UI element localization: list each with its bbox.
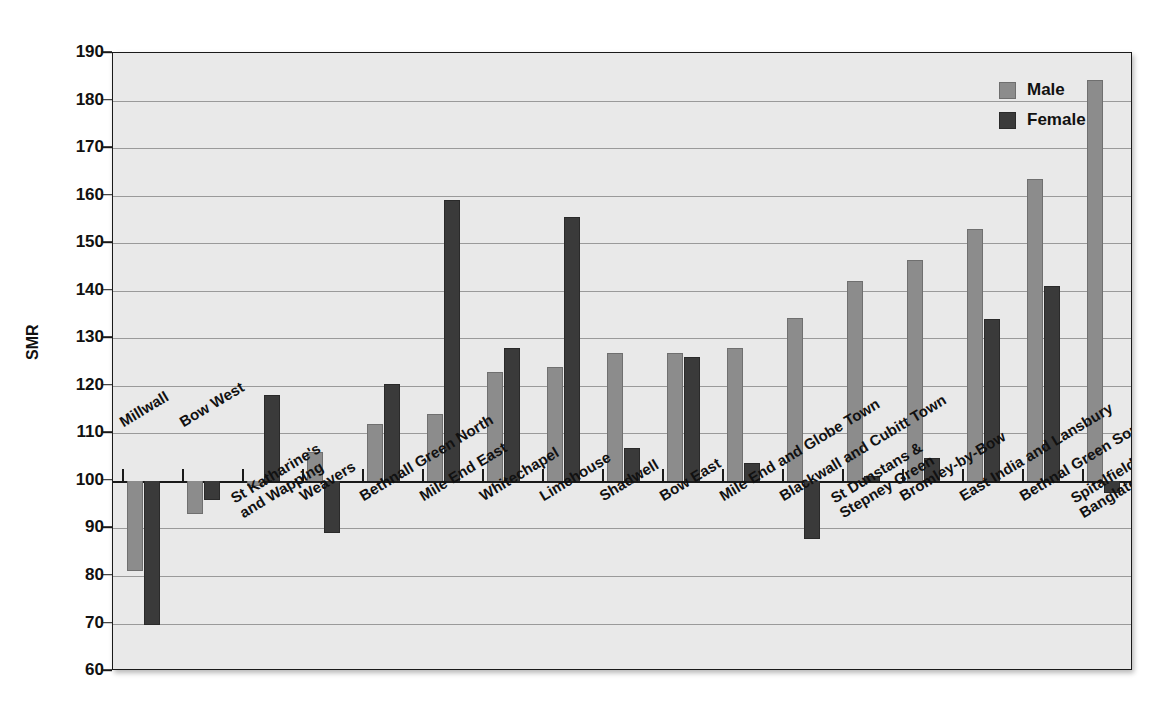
y-axis-tick-mark bbox=[101, 51, 112, 53]
x-axis-tick-mark bbox=[662, 469, 664, 481]
bar-female[interactable] bbox=[684, 357, 700, 481]
y-axis-tick-label: 180 bbox=[34, 90, 104, 110]
bar-female[interactable] bbox=[564, 217, 580, 481]
y-axis-tick-mark bbox=[101, 669, 112, 671]
y-axis-tick-mark bbox=[101, 336, 112, 338]
legend-label-female: Female bbox=[1027, 110, 1086, 130]
gridline bbox=[113, 196, 1131, 197]
bar-male[interactable] bbox=[727, 348, 743, 481]
x-axis-tick-mark bbox=[362, 469, 364, 481]
x-axis-tick-mark bbox=[1022, 469, 1024, 481]
legend-swatch-male-icon bbox=[999, 82, 1016, 99]
x-axis-tick-mark bbox=[122, 469, 124, 481]
y-axis-tick-mark bbox=[101, 194, 112, 196]
y-axis-tick-mark bbox=[101, 384, 112, 386]
x-axis-tick-mark bbox=[782, 469, 784, 481]
legend-item-male[interactable]: Male bbox=[999, 75, 1086, 105]
y-axis-tick-label: 110 bbox=[34, 422, 104, 442]
y-axis-tick-label: 100 bbox=[34, 470, 104, 490]
legend: Male Female bbox=[999, 75, 1086, 135]
y-axis-tick-mark bbox=[101, 241, 112, 243]
bar-male[interactable] bbox=[1027, 179, 1043, 481]
y-axis-tick-label: 130 bbox=[34, 327, 104, 347]
x-axis-tick-mark bbox=[242, 469, 244, 481]
x-axis-tick-mark bbox=[602, 469, 604, 481]
y-axis-tick-mark bbox=[101, 622, 112, 624]
x-axis-tick-mark bbox=[962, 469, 964, 481]
y-axis-tick-label: 170 bbox=[34, 137, 104, 157]
chart-page: Continued data set in a multi-sheet is t… bbox=[0, 0, 1159, 728]
bar-female[interactable] bbox=[204, 481, 220, 500]
gridline bbox=[113, 148, 1131, 149]
y-axis-tick-mark bbox=[101, 479, 112, 481]
y-axis-tick-label: 70 bbox=[34, 613, 104, 633]
y-axis-tick-label: 140 bbox=[34, 280, 104, 300]
y-axis-tick-label: 190 bbox=[34, 42, 104, 62]
y-axis-tick-mark bbox=[101, 99, 112, 101]
gridline bbox=[113, 528, 1131, 529]
y-axis-tick-mark bbox=[101, 574, 112, 576]
x-axis-tick-mark bbox=[1082, 469, 1084, 481]
y-axis-tick-label: 60 bbox=[34, 660, 104, 680]
x-axis-tick-mark bbox=[422, 469, 424, 481]
plot-area: MillwallBow WestSt Katharine's and Wappi… bbox=[112, 52, 1132, 670]
gridline bbox=[113, 576, 1131, 577]
bar-male[interactable] bbox=[667, 353, 683, 481]
x-axis-tick-mark bbox=[182, 469, 184, 481]
y-axis-tick-label: 90 bbox=[34, 517, 104, 537]
bar-female[interactable] bbox=[984, 319, 1000, 481]
y-axis-tick-mark bbox=[101, 527, 112, 529]
plot-inner: MillwallBow WestSt Katharine's and Wappi… bbox=[113, 53, 1131, 669]
y-axis-tick-label: 120 bbox=[34, 375, 104, 395]
bar-male[interactable] bbox=[187, 481, 203, 514]
x-axis-tick-mark bbox=[542, 469, 544, 481]
bar-female[interactable] bbox=[504, 348, 520, 481]
legend-swatch-female-icon bbox=[999, 112, 1016, 129]
gridline bbox=[113, 101, 1131, 102]
legend-label-male: Male bbox=[1027, 80, 1065, 100]
y-axis-tick-mark bbox=[101, 432, 112, 434]
y-axis-tick-mark bbox=[101, 289, 112, 291]
x-axis-category-label: Millwall bbox=[116, 387, 171, 429]
gridline bbox=[113, 624, 1131, 625]
y-axis-tick-mark bbox=[101, 146, 112, 148]
y-axis-tick-label: 160 bbox=[34, 185, 104, 205]
bar-female[interactable] bbox=[144, 481, 160, 626]
y-axis-tick-label: 150 bbox=[34, 232, 104, 252]
y-axis-tick-label: 80 bbox=[34, 565, 104, 585]
legend-item-female[interactable]: Female bbox=[999, 105, 1086, 135]
x-axis-tick-mark bbox=[482, 469, 484, 481]
x-axis-tick-mark bbox=[722, 469, 724, 481]
x-axis-tick-mark bbox=[842, 469, 844, 481]
bar-male[interactable] bbox=[127, 481, 143, 571]
bar-male[interactable] bbox=[367, 424, 383, 481]
